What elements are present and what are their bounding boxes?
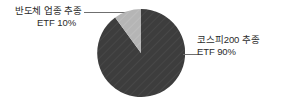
pie-svg (97, 9, 185, 97)
callout-label-semiconductor: 반도체 업종 추종 ETF 10% (8, 5, 82, 29)
callout-label-kospi200-line1: 코스피200 추종 (197, 34, 277, 46)
pie-chart-figure: 반도체 업종 추종 ETF 10% 코스피200 추 (0, 0, 281, 109)
leader-line-kospi200 (183, 54, 198, 55)
callout-label-kospi200: 코스피200 추종 ETF 90% (197, 34, 277, 58)
callout-label-semiconductor-line2: ETF 10% (8, 17, 82, 29)
pie-slice-kospi200 (97, 9, 185, 97)
callout-label-semiconductor-line1: 반도체 업종 추종 (8, 5, 82, 17)
callout-label-kospi200-line2: ETF 90% (197, 46, 277, 58)
pie-graphic (97, 9, 185, 97)
